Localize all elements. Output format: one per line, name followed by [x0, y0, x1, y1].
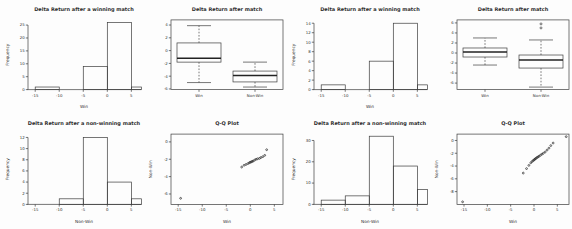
svg-text:Non-Win: Non-Win: [247, 93, 264, 98]
svg-text:Delta Return after match: Delta Return after match: [192, 6, 263, 12]
svg-text:30: 30: [306, 138, 311, 143]
svg-text:0: 0: [308, 202, 311, 207]
svg-text:6: 6: [308, 59, 311, 64]
svg-text:-4: -4: [450, 163, 454, 168]
svg-text:-5: -5: [509, 207, 513, 212]
svg-text:Win: Win: [509, 219, 517, 224]
svg-text:2: 2: [165, 35, 168, 40]
svg-text:8: 8: [22, 157, 25, 162]
svg-text:-10: -10: [342, 93, 349, 98]
svg-text:0: 0: [106, 207, 109, 212]
svg-text:5: 5: [416, 93, 419, 98]
svg-text:4: 4: [22, 179, 25, 184]
svg-text:Delta Return after match: Delta Return after match: [478, 6, 549, 12]
svg-text:Win: Win: [223, 219, 231, 224]
svg-text:2: 2: [22, 191, 25, 196]
svg-text:0: 0: [392, 207, 395, 212]
svg-text:Non-Win: Non-Win: [533, 93, 550, 98]
qq-plot-a-chart: Q-Q PlotWinNon-Win0-2-4-6-15-10-505: [143, 114, 286, 229]
svg-text:-6: -6: [164, 191, 168, 196]
qq-plot-b-chart: Q-Q PlotWinNon-Win0-2-4-6-8-15-10-505: [429, 114, 572, 229]
svg-text:-8: -8: [450, 189, 454, 194]
svg-text:Q-Q Plot: Q-Q Plot: [215, 120, 239, 126]
boxplot-after-match-b-chart: Delta Return after match6420-2-4-6WinNon…: [429, 0, 572, 114]
svg-text:10: 10: [306, 40, 311, 45]
svg-text:-15: -15: [318, 93, 325, 98]
svg-text:-15: -15: [32, 93, 39, 98]
svg-text:Frequency: Frequency: [5, 43, 10, 66]
svg-text:Win: Win: [481, 93, 489, 98]
svg-text:6: 6: [451, 20, 454, 25]
svg-text:10: 10: [20, 61, 25, 66]
svg-text:4: 4: [451, 30, 454, 35]
svg-text:25: 25: [20, 22, 25, 27]
hist-nonwinning-a-chart: Delta Return after a non-winning matchNo…: [0, 114, 143, 229]
svg-text:-10: -10: [342, 207, 349, 212]
svg-text:-15: -15: [318, 207, 325, 212]
svg-text:Frequency: Frequency: [291, 43, 296, 66]
svg-text:4: 4: [165, 22, 168, 27]
hist-winning-b-chart: Delta Return after a winning matchWinFre…: [286, 0, 429, 114]
svg-text:8: 8: [308, 49, 311, 54]
panel-boxplot-after-match-a: Delta Return after match420-2-4-6WinNon-…: [143, 0, 286, 114]
svg-text:0: 0: [533, 207, 536, 212]
svg-text:Delta Return after a winning m: Delta Return after a winning match: [34, 6, 134, 13]
panel-qq-plot-a: Q-Q PlotWinNon-Win0-2-4-6-15-10-505: [143, 114, 286, 229]
svg-text:-15: -15: [461, 207, 468, 212]
svg-text:0: 0: [22, 87, 25, 92]
svg-text:0: 0: [308, 87, 311, 92]
svg-text:Delta Return after a non-winni: Delta Return after a non-winning match: [314, 120, 427, 127]
svg-text:-10: -10: [484, 207, 491, 212]
svg-text:Delta Return after a non-winni: Delta Return after a non-winning match: [28, 120, 141, 127]
panel-hist-nonwinning-b: Delta Return after a non-winning matchNo…: [286, 114, 429, 229]
svg-text:-6: -6: [164, 86, 168, 91]
svg-text:-10: -10: [56, 207, 63, 212]
svg-text:0: 0: [451, 50, 454, 55]
svg-text:Win: Win: [366, 104, 374, 109]
svg-text:-4: -4: [164, 74, 168, 79]
svg-text:20: 20: [20, 35, 25, 40]
panel-hist-winning-b: Delta Return after a winning matchWinFre…: [286, 0, 429, 114]
svg-text:5: 5: [22, 74, 25, 79]
panel-boxplot-after-match-b: Delta Return after match6420-2-4-6WinNon…: [429, 0, 572, 114]
boxplot-after-match-a-chart: Delta Return after match420-2-4-6WinNon-…: [143, 0, 286, 114]
svg-text:-4: -4: [164, 174, 168, 179]
svg-text:0: 0: [249, 207, 252, 212]
svg-text:Win: Win: [80, 104, 88, 109]
svg-text:Frequency: Frequency: [292, 158, 297, 181]
svg-text:0: 0: [106, 93, 109, 98]
svg-text:-10: -10: [56, 93, 63, 98]
svg-text:Q-Q Plot: Q-Q Plot: [501, 120, 525, 126]
svg-text:4: 4: [308, 68, 311, 73]
svg-text:2: 2: [451, 40, 454, 45]
svg-text:-6: -6: [450, 80, 454, 85]
svg-text:0: 0: [451, 138, 454, 143]
svg-text:10: 10: [306, 180, 311, 185]
panel-hist-nonwinning-a: Delta Return after a non-winning matchNo…: [0, 114, 143, 229]
svg-text:Non-Win: Non-Win: [361, 219, 379, 224]
svg-text:-2: -2: [450, 151, 454, 156]
svg-text:Non-Win: Non-Win: [149, 160, 154, 178]
svg-text:15: 15: [20, 48, 25, 53]
svg-text:Frequency: Frequency: [6, 158, 11, 181]
svg-text:-2: -2: [164, 157, 168, 162]
svg-text:-2: -2: [450, 60, 454, 65]
svg-text:-4: -4: [450, 70, 454, 75]
svg-text:Non-Win: Non-Win: [435, 160, 440, 178]
hist-winning-a-chart: Delta Return after a winning matchWinFre…: [0, 0, 143, 114]
svg-text:-2: -2: [164, 61, 168, 66]
svg-text:20: 20: [306, 159, 311, 164]
panel-qq-plot-b: Q-Q PlotWinNon-Win0-2-4-6-8-15-10-505: [429, 114, 572, 229]
svg-text:-15: -15: [175, 207, 182, 212]
r-plot-grid-screenshot: Delta Return after a winning matchWinFre…: [0, 0, 572, 229]
svg-text:5: 5: [273, 207, 276, 212]
svg-text:0: 0: [165, 48, 168, 53]
svg-text:14: 14: [306, 21, 311, 26]
plot-grid: Delta Return after a winning matchWinFre…: [0, 0, 572, 229]
svg-text:-5: -5: [367, 207, 371, 212]
svg-text:10: 10: [20, 146, 25, 151]
svg-text:0: 0: [392, 93, 395, 98]
svg-text:5: 5: [130, 93, 133, 98]
svg-text:Win: Win: [195, 93, 203, 98]
svg-text:-6: -6: [450, 176, 454, 181]
